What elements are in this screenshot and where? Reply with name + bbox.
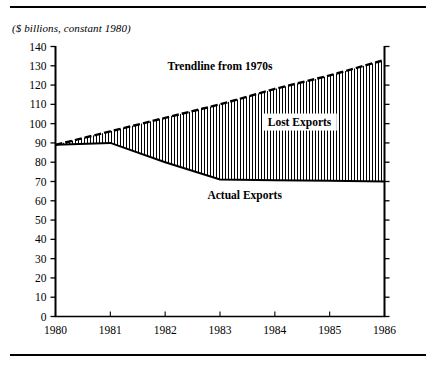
y-axis-label-120: 120 [29, 79, 47, 91]
figure-container: ($ billions, constant 1980) 010203040506… [0, 0, 436, 365]
x-axis-tick-group [56, 312, 385, 317]
actual-exports-label: Actual Exports [207, 189, 282, 202]
y-axis-label-80: 80 [35, 156, 47, 168]
x-axis-label-1980: 1980 [44, 324, 67, 336]
y-axis-label-group: 0102030405060708090100110120130140 [29, 41, 47, 323]
y-axis-label-50: 50 [35, 214, 47, 226]
x-axis-label-1983: 1983 [209, 324, 232, 336]
lost-exports-annotation: Lost Exports [263, 114, 337, 131]
y-axis-label-20: 20 [35, 272, 47, 284]
trendline-annotation: Trendline from 1970s [168, 60, 273, 72]
y-axis-label-90: 90 [35, 137, 47, 149]
y-axis-label-70: 70 [35, 176, 47, 188]
trendline-label: Trendline from 1970s [168, 60, 273, 72]
y-axis-label-140: 140 [29, 41, 47, 53]
x-axis-label-group: 1980198119821983198419851986 [44, 324, 396, 336]
y-axis-label-0: 0 [41, 311, 47, 323]
x-axis-label-1986: 1986 [373, 324, 396, 336]
lost-exports-label: Lost Exports [268, 116, 332, 129]
y-axis-label-100: 100 [29, 118, 47, 130]
y-axis-label-10: 10 [35, 291, 47, 303]
x-axis-label-1981: 1981 [99, 324, 122, 336]
actual-exports-annotation: Actual Exports [207, 189, 282, 202]
y-axis-label-60: 60 [35, 195, 47, 207]
y-axis-label-130: 130 [29, 60, 47, 72]
x-axis-label-1984: 1984 [263, 324, 286, 336]
y-axis-label-110: 110 [30, 98, 47, 110]
y-axis-label-30: 30 [35, 253, 47, 265]
x-axis-label-1982: 1982 [154, 324, 177, 336]
y-axis-label-40: 40 [35, 233, 47, 245]
exports-trendline-chart: 0102030405060708090100110120130140 19801… [0, 0, 436, 365]
x-axis-label-1985: 1985 [318, 324, 341, 336]
